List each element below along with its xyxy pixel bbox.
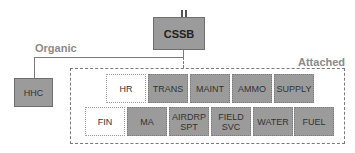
unit-field-services: FIELD SVC [211,107,251,136]
echelon-marks [181,10,187,17]
unit-fin: FIN [85,107,125,136]
hhc-label: HHC [24,88,44,98]
hhc-unit-box: HHC [14,78,53,107]
unit-water: WATER [253,107,293,136]
organic-label: Organic [35,42,77,54]
unit-hr: HR [106,74,146,103]
unit-trans: TRANS [148,74,188,103]
cssb-stem-line [183,50,184,57]
unit-ammo: AMMO [232,74,272,103]
unit-ma: MA [127,107,167,136]
cssb-unit-box: CSSB [153,17,205,50]
attached-label: Attached [298,56,345,68]
unit-fuel: FUEL [294,107,334,136]
attached-dashed-connector [183,57,184,68]
hhc-drop-line [34,57,35,78]
unit-airdrop-support: AIRDRP SPT [169,107,209,136]
cssb-label: CSSB [164,29,195,39]
organic-horizontal-line [34,57,184,58]
unit-maint: MAINT [190,74,230,103]
unit-supply: SUPPLY [274,74,314,103]
